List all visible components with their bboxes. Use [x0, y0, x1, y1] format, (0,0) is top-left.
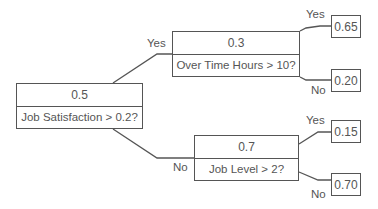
label-top-no: No — [311, 84, 326, 96]
label-root-no: No — [173, 161, 188, 173]
root-value: 0.5 — [17, 84, 142, 107]
no-node-value: 0.7 — [195, 136, 298, 159]
edge-root-yes — [113, 54, 172, 83]
edge-root-no — [113, 129, 194, 158]
label-bottom-yes: Yes — [306, 114, 325, 126]
yes-node-value: 0.3 — [173, 32, 299, 55]
label-top-yes: Yes — [306, 8, 325, 20]
no-node: 0.7 Job Level > 2? — [194, 135, 299, 181]
edge-bottom-no — [299, 172, 331, 180]
label-bottom-no: No — [311, 188, 326, 200]
yes-node: 0.3 Over Time Hours > 10? — [172, 31, 300, 77]
edge-top-yes — [300, 26, 331, 31]
root-question: Job Satisfaction > 0.2? — [17, 107, 142, 129]
yes-node-question: Over Time Hours > 10? — [173, 55, 299, 77]
leaf-yes-no: 0.20 — [331, 69, 361, 92]
root-node: 0.5 Job Satisfaction > 0.2? — [16, 83, 143, 129]
no-node-question: Job Level > 2? — [195, 159, 298, 181]
label-root-yes: Yes — [147, 37, 166, 49]
leaf-no-yes: 0.15 — [331, 120, 361, 143]
leaf-no-no: 0.70 — [331, 173, 361, 196]
leaf-yes-yes: 0.65 — [331, 15, 361, 38]
edge-bottom-yes — [299, 132, 331, 144]
edge-top-no — [300, 77, 331, 80]
